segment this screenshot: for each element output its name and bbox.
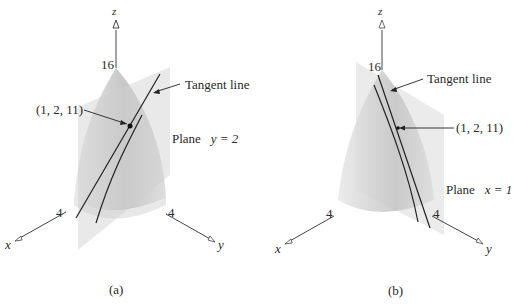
caption-a: (a)	[109, 283, 123, 296]
plane-label: Plane x = 1	[446, 183, 512, 196]
caption-b: (b)	[388, 284, 403, 297]
z-axis-arrow-icon	[113, 20, 119, 28]
point-label: (1, 2, 11)	[456, 121, 503, 134]
z-tick-16: 16	[101, 58, 114, 71]
z-axis-label: z	[112, 6, 116, 17]
z-axis-label: z	[378, 6, 382, 17]
x-tick-4: 4	[326, 207, 333, 220]
x-axis-label: x	[5, 238, 11, 251]
figure-panel-a: z 16 Tangent line (1, 2, 11) Plane y = 2…	[0, 0, 258, 307]
tangent-line-label: Tangent line	[185, 78, 249, 91]
z-axis-arrow-icon	[379, 20, 385, 28]
plane-equation: y = 2	[211, 131, 239, 146]
plane-word: Plane	[446, 182, 475, 197]
x-axis-arrow-icon	[15, 236, 22, 241]
y-axis-label: y	[218, 238, 224, 251]
tangent-line-label: Tangent line	[427, 72, 491, 85]
paraboloid-surface	[338, 70, 434, 212]
paraboloid-diagram-b	[258, 0, 516, 307]
x-axis-label: x	[275, 242, 281, 255]
point-of-tangency	[128, 124, 133, 129]
plane-word: Plane	[172, 131, 201, 146]
z-tick-16: 16	[368, 60, 381, 73]
y-axis-arrow-icon	[476, 238, 483, 244]
y-axis-label: y	[486, 242, 492, 255]
plane-label: Plane y = 2	[172, 132, 238, 145]
x-axis-arrow-icon	[285, 239, 292, 244]
figure-panel-b: z 16 Tangent line (1, 2, 11) Plane x = 1…	[258, 0, 516, 307]
y-tick-4: 4	[433, 207, 440, 220]
point-label: (1, 2, 11)	[36, 103, 83, 116]
plane-y-2	[78, 67, 170, 250]
y-tick-4: 4	[168, 206, 175, 219]
x-tick-4: 4	[56, 206, 63, 219]
y-axis-arrow-icon	[208, 236, 215, 242]
plane-equation: x = 1	[485, 182, 513, 197]
paraboloid-diagram-a	[0, 0, 258, 307]
